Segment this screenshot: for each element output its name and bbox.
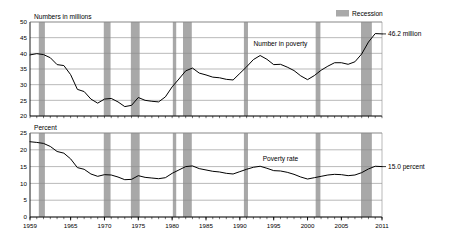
series-line-number-in-poverty [30, 34, 382, 107]
recession-band [39, 133, 45, 217]
x-tick-label: 1995 [267, 222, 281, 229]
recession-band [361, 133, 372, 217]
x-tick-label: 1959 [23, 222, 37, 229]
y-axis-title: Numbers in millions [34, 13, 92, 20]
x-tick-label: 2000 [301, 222, 315, 229]
y-tick-label: 0 [24, 213, 28, 220]
legend: Recession [336, 10, 383, 17]
y-tick-label: 15 [20, 163, 27, 170]
y-tick-label: 35 [20, 65, 27, 72]
gridlines-0 [30, 22, 382, 116]
chart-panel-0: 20253035404550Numbers in millionsNumber … [20, 13, 422, 120]
y-tick-labels-1: 0510152025 [20, 129, 27, 220]
y-axis-title: Percent [34, 124, 57, 131]
x-tick-label: 2005 [335, 222, 349, 229]
y-tick-label: 45 [20, 34, 27, 41]
x-tick-labels: 1959196519701975198019851990199520002005… [23, 217, 389, 229]
series-annotation-label: Poverty rate [263, 155, 299, 163]
y-tick-label: 30 [20, 81, 27, 88]
recession-band [173, 133, 176, 217]
y-tick-label: 20 [20, 146, 27, 153]
x-tick-label: 1990 [233, 222, 247, 229]
recession-band [131, 133, 140, 217]
x-tick-label: 1980 [165, 222, 179, 229]
end-value-label: 46.2 million [388, 30, 422, 37]
chart-panel-1: 0510152025Percent19591965197019751980198… [20, 124, 425, 230]
x-tick-label: 2011 [375, 222, 389, 229]
y-tick-label: 40 [20, 50, 27, 57]
x-tick-label: 1965 [64, 222, 78, 229]
series-annotation-label: Number in poverty [254, 40, 309, 48]
y-tick-labels-0: 20253035404550 [20, 18, 27, 119]
x-tick-label: 1985 [199, 222, 213, 229]
chart-canvas: 20253035404550Numbers in millionsNumber … [0, 0, 451, 246]
recession-band [183, 133, 192, 217]
legend-label-recession: Recession [352, 10, 383, 17]
x-tick-label: 1975 [131, 222, 145, 229]
recession-band [244, 133, 248, 217]
series-line-poverty-rate [30, 142, 382, 180]
y-tick-label: 10 [20, 180, 27, 187]
y-tick-label: 50 [20, 18, 27, 25]
poverty-chart-figure: 20253035404550Numbers in millionsNumber … [0, 0, 451, 246]
y-tick-label: 25 [20, 97, 27, 104]
y-tick-label: 5 [24, 196, 28, 203]
y-tick-label: 25 [20, 129, 27, 136]
y-tick-label: 20 [20, 112, 27, 119]
end-value-label: 15.0 percent [388, 163, 425, 171]
recession-bands-1 [39, 133, 372, 217]
x-tick-label: 1970 [98, 222, 112, 229]
recession-band [316, 133, 321, 217]
legend-swatch-recession [336, 10, 349, 17]
